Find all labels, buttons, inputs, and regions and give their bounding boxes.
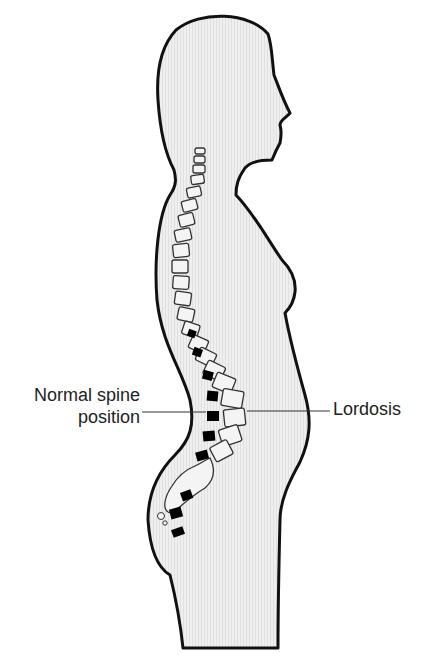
normal-spine-position-label: Normal spine position [34, 384, 140, 428]
normal-spine-label-line1: Normal spine [34, 384, 140, 406]
spine-diagram [0, 0, 423, 662]
normal-spine-label-line2: position [34, 406, 140, 428]
lordosis-label: Lordosis [333, 398, 401, 420]
body-silhouette [148, 16, 309, 648]
